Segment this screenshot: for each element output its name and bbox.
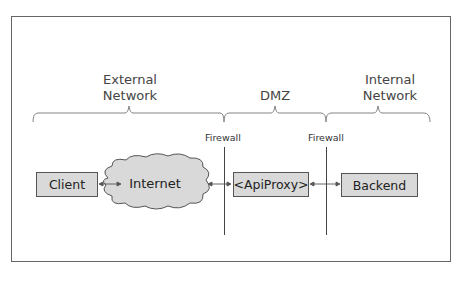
firewall-2-label: Firewall	[308, 132, 344, 143]
firewall-1-label: Firewall	[205, 132, 241, 143]
diagram-graphics	[0, 0, 465, 301]
firewall-2-line	[326, 147, 327, 235]
firewall-1-line	[224, 147, 225, 235]
zone-braces	[33, 106, 430, 122]
apiproxy-node: <ApiProxy>	[233, 172, 309, 197]
client-node: Client	[36, 172, 98, 197]
internet-node-label: Internet	[125, 176, 185, 192]
backend-node: Backend	[341, 173, 418, 197]
